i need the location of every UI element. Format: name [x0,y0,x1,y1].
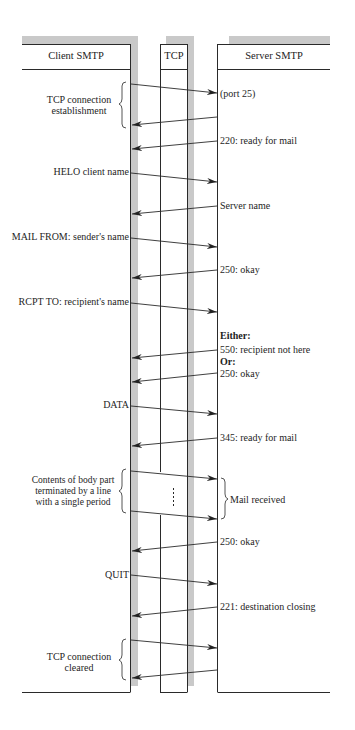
helo-label: HELO client name [53,166,129,177]
mail-received-label: Mail received [230,494,285,505]
not-here-550-label: 550: recipient not here [220,344,310,355]
body-line-3: with a single period [28,497,118,508]
port-label: (port 25) [220,88,255,99]
quit-label: QUIT [105,569,129,580]
body-label: Contents of body part terminated by a li… [28,475,118,508]
tcp-header: TCP [160,50,188,61]
message-arrows [131,84,217,678]
tcp-establish-label: TCP connection establishment [40,94,118,116]
tcp-box [160,44,188,693]
brace-tcp-establish [119,82,126,128]
body-line-2: terminated by a line [28,486,118,497]
brace-mail-received [221,478,228,519]
body-line-1: Contents of body part [28,475,118,486]
closing-221-label: 221: destination closing [220,601,316,612]
tcp-cleared-line-2: cleared [40,662,118,673]
okay-250-b-label: 250: okay [220,368,260,379]
rcpt-to-label: RCPT TO: recipient's name [19,296,129,307]
ready-220-label: 220: ready for mail [220,135,297,146]
client-smtp-box [22,44,131,693]
or-label: Or: [220,356,236,367]
okay-250-c-label: 250: okay [220,536,260,547]
mail-from-label: MAIL FROM: sender's name [12,231,129,242]
okay-250-a-label: 250: okay [220,264,260,275]
shadow-strips [22,36,330,686]
server-smtp-header: Server SMTP [218,50,330,61]
ready-345-label: 345: ready for mail [220,432,297,443]
tcp-establish-line-2: establishment [40,105,118,116]
either-label: Either: [220,330,251,341]
brace-tcp-cleared [119,639,126,680]
brace-body [119,469,126,513]
data-label: DATA [103,399,129,410]
tcp-establish-line-1: TCP connection [40,94,118,105]
server-name-label: Server name [220,200,270,211]
client-smtp-header: Client SMTP [22,50,130,61]
tcp-cleared-label: TCP connection cleared [40,651,118,673]
tcp-cleared-line-1: TCP connection [40,651,118,662]
